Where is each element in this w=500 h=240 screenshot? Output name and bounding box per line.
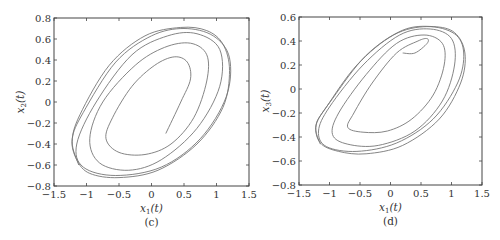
y-tick-label: 0 [45, 97, 51, 108]
x-axis-label: x1(t) [140, 202, 163, 216]
x-tick-label: −0.5 [348, 188, 372, 199]
panel-caption: (d) [383, 215, 398, 227]
y-tick-label: 0 [290, 84, 296, 95]
y-tick-label: −0.2 [27, 118, 51, 129]
y-tick-label: 0.8 [35, 13, 51, 24]
x-tick-label: 1 [448, 188, 454, 199]
y-tick-label: 0.4 [35, 55, 51, 66]
y-tick-label: −0.2 [272, 108, 296, 119]
y-tick-label: −0.6 [272, 156, 296, 167]
x-tick-label: −1 [322, 188, 337, 199]
trajectory-line [72, 27, 231, 178]
x-tick-label: 0 [148, 189, 154, 200]
y-tick-label: 0.6 [280, 12, 296, 23]
x-tick-label: 0.5 [176, 189, 192, 200]
chart-figure: −1.5−1−0.500.511.5−0.8−0.6−0.4−0.200.20.… [0, 0, 500, 240]
trajectory-line [316, 26, 466, 154]
x-tick-label: 0.5 [413, 188, 429, 199]
y-tick-label: −0.6 [27, 160, 51, 171]
y-tick-label: 0.6 [35, 34, 51, 45]
y-tick-label: 0.2 [280, 60, 296, 71]
y-axis-label: x2(t) [14, 91, 28, 114]
plot-frame [299, 17, 482, 185]
y-tick-label: −0.4 [272, 132, 296, 143]
y-tick-label: −0.8 [272, 180, 296, 191]
panel-caption: (c) [144, 216, 158, 228]
y-tick-label: 0.2 [35, 76, 51, 87]
y-tick-label: −0.8 [27, 181, 51, 192]
chart-panel-c: −1.5−1−0.500.511.5−0.8−0.6−0.4−0.200.20.… [14, 13, 257, 229]
x-tick-label: 1.5 [241, 189, 257, 200]
x-axis-label: x1(t) [379, 201, 402, 215]
chart-panel-d: −1.5−1−0.500.511.5−0.8−0.6−0.4−0.200.20.… [259, 12, 490, 228]
y-tick-label: −0.4 [27, 139, 51, 150]
y-tick-label: 0.4 [280, 36, 296, 47]
x-tick-label: −1 [79, 189, 94, 200]
y-axis-label: x3(t) [259, 90, 273, 113]
x-tick-label: 1 [213, 189, 219, 200]
x-tick-label: 0 [387, 188, 393, 199]
x-tick-label: 1.5 [474, 188, 490, 199]
plot-frame [54, 18, 249, 186]
x-tick-label: −0.5 [107, 189, 131, 200]
